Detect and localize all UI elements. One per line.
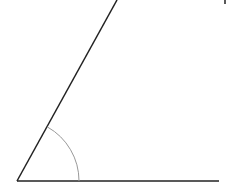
- angle-arc: [48, 127, 80, 181]
- upper-ray: [17, 0, 117, 181]
- angle-diagram: [0, 0, 227, 186]
